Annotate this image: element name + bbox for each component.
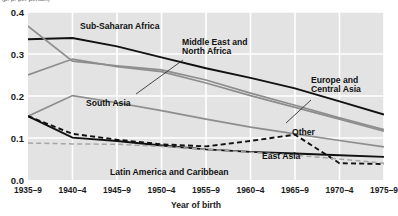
x-axis-title: Year of birth	[171, 200, 221, 210]
series-label: South Asia	[86, 99, 131, 109]
series-label: East Asia	[262, 152, 300, 162]
x-tick-label: 1975–9	[370, 185, 398, 195]
y-axis: 0.4 0.3 0.2 0.1 0.0	[0, 0, 24, 216]
x-tick-label: 1960–4	[237, 185, 265, 195]
x-tick-label: 1945–9	[103, 185, 131, 195]
x-tick-label: 1940–4	[59, 185, 87, 195]
x-tick-label: 1965–9	[281, 185, 309, 195]
x-tick-label: 1955–9	[192, 185, 220, 195]
series-label: Latin America and Caribbean	[110, 168, 229, 178]
series-label: Central Asia	[311, 85, 361, 95]
x-tick-label: 1950–4	[148, 185, 176, 195]
y-tick-label: 0.0	[0, 175, 24, 186]
x-tick-label: 1935–9	[14, 185, 42, 195]
series-label: Other	[292, 128, 315, 138]
y-tick-label: 0.1	[0, 133, 24, 144]
x-tick-label: 1970–4	[326, 185, 354, 195]
y-tick-label: 0.3	[0, 49, 24, 60]
y-tick-label: 0.2	[0, 91, 24, 102]
series-label: North Africa	[182, 47, 231, 57]
y-tick-label: 0.4	[0, 7, 24, 18]
series-label: Sub-Saharan Africa	[80, 22, 159, 32]
